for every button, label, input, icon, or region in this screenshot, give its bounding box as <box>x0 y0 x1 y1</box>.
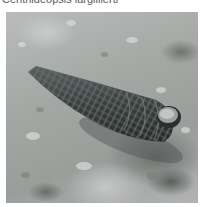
snail-shell <box>6 12 198 203</box>
snail-photo <box>6 12 198 203</box>
image-caption: Cerithideopsis largillierti <box>2 0 118 5</box>
